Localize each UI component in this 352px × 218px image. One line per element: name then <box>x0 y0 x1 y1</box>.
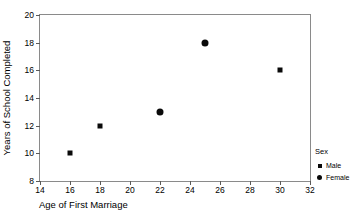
legend-item-label: Male <box>326 161 341 170</box>
square-marker-icon <box>315 164 324 168</box>
x-axis-tick-label: 18 <box>95 186 104 195</box>
y-axis-tick-label: 8 <box>29 177 34 186</box>
chart-legend: Sex MaleFemale <box>315 147 352 183</box>
y-axis-title: Years of School Completed <box>0 14 14 182</box>
plot-area: 810121416182014161820222426283032 <box>39 14 311 182</box>
circle-marker-icon <box>315 175 324 180</box>
scatter-plot-figure: 810121416182014161820222426283032 Years … <box>0 0 352 218</box>
x-axis-title: Age of First Marriage <box>39 199 128 211</box>
y-axis-tick <box>36 126 40 127</box>
x-axis-tick-label: 32 <box>305 186 314 195</box>
y-axis-tick-label: 10 <box>25 149 34 158</box>
y-axis-tick-label: 14 <box>25 94 34 103</box>
x-axis-tick-label: 28 <box>245 186 254 195</box>
y-axis-tick <box>36 98 40 99</box>
x-axis-tick-label: 16 <box>65 186 74 195</box>
x-axis-tick-label: 24 <box>185 186 194 195</box>
x-axis-tick-label: 22 <box>155 186 164 195</box>
legend-item-female[interactable]: Female <box>315 172 352 183</box>
data-point-female <box>202 39 209 46</box>
y-axis-tick-label: 16 <box>25 66 34 75</box>
x-axis-tick-label: 26 <box>215 186 224 195</box>
legend-item-male[interactable]: Male <box>315 160 352 171</box>
x-axis-tick-label: 14 <box>35 186 44 195</box>
y-axis-tick-label: 12 <box>25 121 34 130</box>
data-point-female <box>157 108 164 115</box>
y-axis-tick-label: 18 <box>25 38 34 47</box>
legend-title: Sex <box>315 147 352 156</box>
x-axis-tick-label: 30 <box>275 186 284 195</box>
data-point-male <box>98 123 103 128</box>
y-axis-tick-label: 20 <box>25 11 34 20</box>
y-axis-tick <box>36 153 40 154</box>
data-point-male <box>278 68 283 73</box>
legend-item-label: Female <box>326 173 349 182</box>
data-point-male <box>68 151 73 156</box>
legend-entries: MaleFemale <box>315 160 352 183</box>
y-axis-tick <box>36 70 40 71</box>
x-axis-tick-label: 20 <box>125 186 134 195</box>
y-axis-tick <box>36 15 40 16</box>
y-axis-tick <box>36 43 40 44</box>
